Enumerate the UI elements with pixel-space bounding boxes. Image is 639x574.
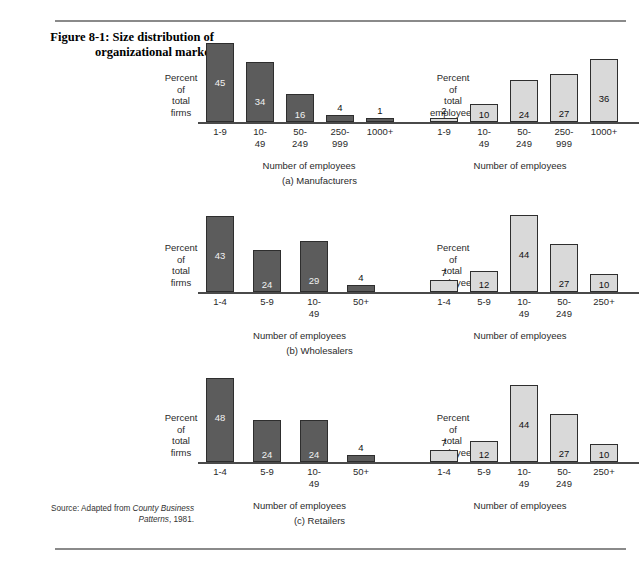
x-axis-tick-label: 1-4 [198,296,242,308]
x-axis-tick-label: 10-49 [292,466,336,489]
bar-value-label: 36 [590,93,618,104]
bar [326,115,354,122]
bar-value-label: 27 [550,448,578,459]
x-axis-tick-label: 50-249 [542,466,586,489]
y-axis-label-firms: Percentoftotalfirms [158,412,204,458]
panel-retailers: Percentoftotalfirms481-4245-92410-49450+… [0,368,639,540]
bar-value-label: 24 [253,279,281,290]
axis-baseline [198,122,428,124]
x-axis-tick-label: 50+ [339,466,383,478]
x-axis-tick-label: 1-4 [422,296,466,308]
bar [430,450,458,462]
x-axis-caption: Number of employees [190,330,409,341]
bar-value-label: 24 [300,449,328,460]
bar [246,62,274,122]
bar [430,280,458,292]
bar-value-label: 2 [430,105,458,116]
panel-caption-c: (c) Retailers [0,515,639,526]
bar-value-label: 27 [550,108,578,119]
x-axis-caption: Number of employees [400,160,639,171]
axis-baseline [400,462,639,464]
bar-value-label: 7 [430,437,458,448]
x-axis-tick-label: 10-49 [462,126,506,149]
bar-value-label: 4 [347,442,375,453]
x-axis-tick-label: 5-9 [245,296,289,308]
bar-value-label: 12 [470,279,498,290]
bar-value-label: 4 [326,102,354,113]
x-axis-caption: Number of employees [400,500,639,511]
top-rule [55,20,626,22]
bar-value-label: 10 [470,109,498,120]
x-axis-tick-label: 50-249 [278,126,322,149]
x-axis-tick-label: 5-9 [245,466,289,478]
x-axis-tick-label: 1000+ [582,126,626,138]
x-axis-tick-label: 5-9 [462,466,506,478]
bar-value-label: 48 [206,412,234,423]
panel-caption-a: (a) Manufacturers [0,175,639,186]
axis-baseline [198,292,409,294]
panel-wholesalers: Percentoftotalfirms431-4245-92910-49450+… [0,198,639,366]
bar-value-label: 7 [430,267,458,278]
x-axis-tick-label: 1-4 [198,466,242,478]
x-axis-tick-label: 250-999 [542,126,586,149]
x-axis-tick-label: 250-999 [318,126,362,149]
bar [347,285,375,292]
bar-value-label: 44 [510,249,538,260]
bar [347,455,375,462]
bar-value-label: 4 [347,272,375,283]
bar [366,118,394,122]
x-axis-tick-label: 250+ [582,296,626,308]
x-axis-tick-label: 1000+ [358,126,402,138]
y-axis-label-firms: Percentoftotalfirms [158,242,204,288]
bar-value-label: 12 [470,449,498,460]
x-axis-tick-label: 1-4 [422,466,466,478]
axis-baseline [400,292,639,294]
bar-value-label: 10 [590,449,618,460]
x-axis-tick-label: 1-9 [198,126,242,138]
x-axis-tick-label: 250+ [582,466,626,478]
figure-page: Figure 8-1: Size distribution of organiz… [0,0,639,574]
bar-value-label: 34 [246,96,274,107]
x-axis-caption: Number of employees [400,330,639,341]
y-axis-label-firms: Percentoftotalfirms [158,72,204,118]
panel-manufacturers: Percentoftotalfirms451-93410-491650-2494… [0,28,639,196]
bottom-rule [55,548,626,550]
bar-value-label: 24 [253,449,281,460]
axis-baseline [400,122,639,124]
x-axis-caption: Number of employees [190,160,428,171]
bar-value-label: 10 [590,279,618,290]
x-axis-tick-label: 50+ [339,296,383,308]
x-axis-tick-label: 1-9 [422,126,466,138]
bar-value-label: 45 [206,77,234,88]
x-axis-tick-label: 50-249 [542,296,586,319]
bar-value-label: 29 [300,275,328,286]
axis-baseline [198,462,409,464]
panel-caption-b: (b) Wholesalers [0,345,639,356]
bar-value-label: 27 [550,278,578,289]
bar-value-label: 24 [510,109,538,120]
x-axis-tick-label: 10-49 [238,126,282,149]
bar-value-label: 43 [206,250,234,261]
bar [430,118,458,122]
bar [590,59,618,122]
x-axis-tick-label: 10-49 [292,296,336,319]
x-axis-tick-label: 10-49 [502,466,546,489]
bar-value-label: 44 [510,419,538,430]
x-axis-tick-label: 10-49 [502,296,546,319]
x-axis-tick-label: 50-249 [502,126,546,149]
bar-value-label: 16 [286,109,314,120]
bar-value-label: 1 [366,105,394,116]
x-axis-tick-label: 5-9 [462,296,506,308]
x-axis-caption: Number of employees [190,500,409,511]
